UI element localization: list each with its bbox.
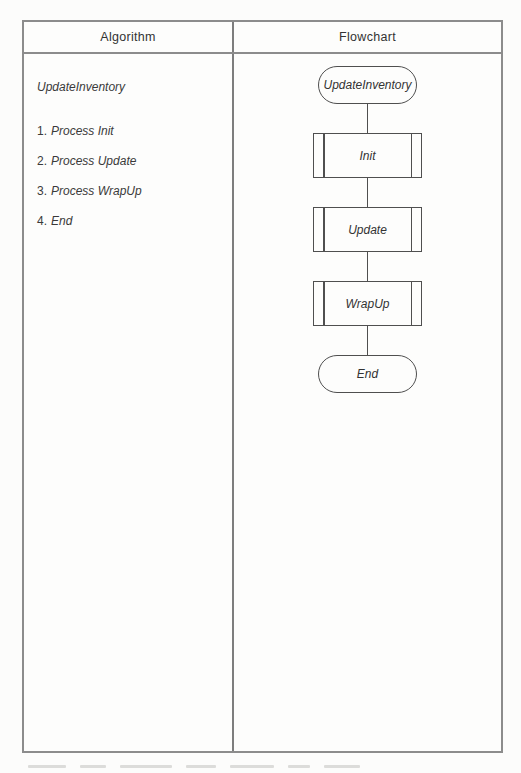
scanned-page: Algorithm Flowchart UpdateInventory 1.Pr… [0,0,521,773]
algorithm-title: UpdateInventory [37,81,232,94]
step-text: End [51,214,72,228]
flowchart-cell: UpdateInventory Init Update WrapUp End [234,54,501,751]
algorithm-step: 3.Process WrapUp [37,185,232,198]
clipped-caption-remnant [28,765,428,773]
table-header-row: Algorithm Flowchart [24,22,501,54]
step-text: Process WrapUp [51,184,142,198]
step-text: Process Update [51,154,136,168]
step-number: 3. [37,184,47,198]
step-text: Process Init [51,124,114,138]
flowchart-predefined-process-wrapup: WrapUp [313,281,422,326]
table-body-row: UpdateInventory 1.Process Init 2.Process… [24,54,501,751]
algorithm-step: 1.Process Init [37,125,232,138]
algorithm-step-list: 1.Process Init 2.Process Update 3.Proces… [37,125,232,228]
algorithm-flowchart-table: Algorithm Flowchart UpdateInventory 1.Pr… [22,20,503,753]
step-number: 1. [37,124,47,138]
algorithm-step: 2.Process Update [37,155,232,168]
flowchart-terminal-start: UpdateInventory [318,66,417,104]
algorithm-cell: UpdateInventory 1.Process Init 2.Process… [24,54,234,751]
step-number: 2. [37,154,47,168]
flowchart-connector [367,326,369,355]
flowchart-connector [367,178,369,207]
flowchart-connector [367,252,369,281]
column-header-algorithm: Algorithm [24,22,234,52]
flowchart-terminal-end: End [318,355,417,393]
flowchart-predefined-process-init: Init [313,133,422,178]
flowchart-connector [367,104,369,133]
column-header-flowchart: Flowchart [234,22,501,52]
algorithm-step: 4.End [37,215,232,228]
flowchart-predefined-process-update: Update [313,207,422,252]
step-number: 4. [37,214,47,228]
